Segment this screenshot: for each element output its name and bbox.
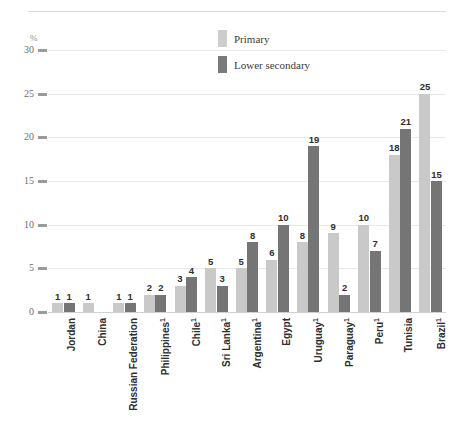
bar-lower-secondary: [308, 146, 319, 312]
bar-value-label: 21: [395, 117, 417, 127]
y-axis-tick-mark: [38, 93, 47, 96]
x-axis-label-chile: Chile1: [190, 318, 202, 346]
y-axis-tick-mark: [38, 136, 47, 139]
x-axis-label-philippines: Philippines1: [159, 318, 171, 375]
legend-item-lower-secondary: Lower secondary: [218, 56, 310, 73]
bar-value-label: 15: [425, 170, 447, 180]
y-axis-tick-label: 0: [14, 307, 34, 317]
bar-lower-secondary: [247, 242, 258, 312]
y-axis-tick-label: 30: [14, 45, 34, 55]
chart-legend: Primary Lower secondary: [218, 30, 310, 82]
bar-primary: [83, 303, 94, 312]
bar-value-label: 9: [322, 222, 344, 232]
bar-group: 11: [109, 50, 140, 312]
x-axis-label-jordan: Jordan: [67, 318, 77, 351]
bar-primary: [52, 303, 63, 312]
bar-group: 1821: [385, 50, 416, 312]
bar-group: 53: [201, 50, 232, 312]
bar-group: 22: [140, 50, 171, 312]
y-axis-tick-mark: [38, 267, 47, 270]
bar-primary: [236, 268, 247, 312]
bar-primary: [144, 295, 155, 312]
y-axis-tick-label: 25: [14, 89, 34, 99]
axis-baseline: [48, 312, 446, 313]
x-axis-label-russian-federation: Russian Federation: [129, 318, 139, 411]
x-axis-label-peru: Peru1: [373, 318, 385, 344]
bar-primary: [175, 286, 186, 312]
bar-lower-secondary: [370, 251, 381, 312]
bar-group: 34: [170, 50, 201, 312]
x-axis-label-brazil: Brazil1: [435, 318, 447, 349]
legend-swatch-lower-secondary-icon: [218, 56, 227, 73]
bar-chart: % 051015202530 1111122345358610819921071…: [0, 0, 454, 432]
bar-primary: [113, 303, 124, 312]
x-axis-label-argentina: Argentina1: [251, 318, 263, 369]
bar-lower-secondary: [278, 225, 289, 312]
y-axis-tick-label: 5: [14, 263, 34, 273]
legend-item-primary: Primary: [218, 30, 310, 47]
bar-lower-secondary: [155, 295, 166, 312]
bar-lower-secondary: [339, 295, 350, 312]
clipped-header-text: [30, 0, 280, 6]
x-axis-label-tunisia: Tunisia: [404, 318, 414, 352]
bar-value-label: 10: [353, 213, 375, 223]
y-axis-tick-mark: [38, 180, 47, 183]
y-axis-tick-mark: [38, 49, 47, 52]
bar-value-label: 1: [119, 292, 141, 302]
bar-primary: [389, 155, 400, 312]
bar-group: 1: [79, 50, 110, 312]
x-axis-label-egypt: Egypt: [282, 318, 292, 346]
x-axis-label-sri-lanka: Sri Lanka1: [220, 318, 232, 367]
x-axis-label-uruguay: Uruguay1: [312, 318, 324, 362]
bar-lower-secondary: [186, 277, 197, 312]
bar-value-label: 2: [334, 283, 356, 293]
y-axis-tick-label: 15: [14, 176, 34, 186]
plot-area: 11111223453586108199210718212515: [48, 50, 446, 312]
bar-group: 92: [324, 50, 355, 312]
bar-value-label: 7: [364, 239, 386, 249]
bar-lower-secondary: [400, 129, 411, 312]
bar-group: 107: [354, 50, 385, 312]
y-axis-tick-mark: [38, 311, 47, 314]
bar-value-label: 25: [414, 82, 436, 92]
bar-lower-secondary: [431, 181, 442, 312]
bar-lower-secondary: [64, 303, 75, 312]
x-axis-label-china: China: [98, 318, 108, 346]
bar-group: 819: [293, 50, 324, 312]
bar-value-label: 3: [211, 274, 233, 284]
y-axis-tick-label: 10: [14, 220, 34, 230]
y-axis-tick-mark: [38, 224, 47, 227]
bar-value-label: 2: [150, 283, 172, 293]
bar-primary: [358, 225, 369, 312]
legend-swatch-primary-icon: [218, 30, 227, 47]
bar-group: 610: [262, 50, 293, 312]
bar-value-label: 8: [242, 231, 264, 241]
legend-label-primary: Primary: [234, 33, 269, 45]
bar-group: 2515: [415, 50, 446, 312]
bar-primary: [297, 242, 308, 312]
bar-lower-secondary: [125, 303, 136, 312]
bar-value-label: 4: [181, 266, 203, 276]
bar-primary: [266, 260, 277, 312]
legend-label-lower-secondary: Lower secondary: [234, 59, 310, 71]
y-axis-tick-label: 20: [14, 132, 34, 142]
bar-value-label: 10: [272, 213, 294, 223]
bar-lower-secondary: [217, 286, 228, 312]
bar-primary: [328, 233, 339, 312]
bar-value-label: 19: [303, 135, 325, 145]
bar-group: 58: [232, 50, 263, 312]
bar-value-label: 5: [200, 257, 222, 267]
bar-value-label: 1: [77, 292, 99, 302]
bar-primary: [419, 94, 430, 312]
x-axis-label-paraguay: Paraguay1: [343, 318, 355, 367]
bar-group: 11: [48, 50, 79, 312]
y-axis-unit-label: %: [30, 33, 38, 43]
header-divider: [28, 11, 446, 12]
